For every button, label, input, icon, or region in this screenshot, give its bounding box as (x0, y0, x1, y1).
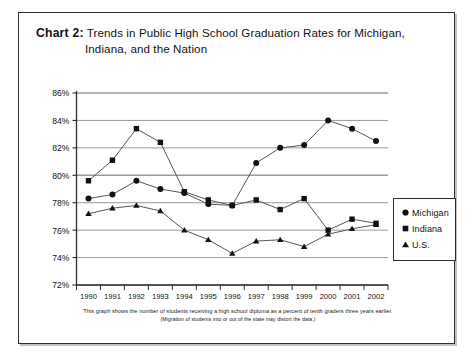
chart-card: Chart 2: Trends in Public High School Gr… (18, 12, 455, 344)
data-point-us-1998 (277, 237, 283, 242)
data-point-indiana-1993 (158, 140, 163, 145)
y-tick-label: 80% (52, 171, 70, 181)
data-point-us-1996 (229, 250, 235, 255)
square-marker-icon (399, 224, 412, 233)
circle-marker-icon (399, 208, 412, 217)
x-tick-label: 2000 (320, 292, 337, 301)
data-point-michigan-1999 (301, 142, 307, 148)
data-point-michigan-2001 (349, 126, 355, 132)
x-tick-label: 1993 (152, 292, 169, 301)
legend-item-michigan: Michigan (399, 205, 450, 220)
x-tick-label: 1992 (128, 292, 145, 301)
legend-label-us: U.S. (412, 240, 430, 250)
data-point-indiana-1999 (301, 196, 306, 201)
legend-item-indiana: Indiana (399, 221, 450, 236)
x-tick-labels-group: 1990199119921993199419951996199719981999… (80, 292, 384, 301)
y-tick-label: 84% (52, 116, 70, 126)
y-tick-labels-group: 72%74%76%78%80%82%84%86% (52, 88, 70, 290)
x-tick-label: 1996 (224, 292, 241, 301)
x-tick-label: 1994 (176, 292, 193, 301)
data-point-indiana-1994 (182, 189, 187, 194)
data-point-indiana-1995 (206, 197, 211, 202)
x-tick-label: 2002 (368, 292, 385, 301)
data-point-michigan-1997 (253, 160, 259, 166)
data-point-michigan-1991 (109, 191, 115, 197)
x-tick-label: 1999 (296, 292, 313, 301)
legend-item-us: U.S. (399, 237, 450, 252)
series-line-us (88, 205, 376, 253)
line-chart-svg: 72%74%76%78%80%82%84%86% 199019911992199… (19, 13, 456, 345)
x-tick-label: 1991 (104, 292, 121, 301)
x-tick-label: 1998 (272, 292, 289, 301)
y-tick-label: 76% (52, 226, 70, 236)
data-point-indiana-1990 (86, 178, 91, 183)
series-lines-group (88, 120, 376, 253)
y-tick-label: 82% (52, 143, 70, 153)
x-tick-label: 1990 (80, 292, 97, 301)
y-tick-label: 78% (52, 198, 70, 208)
legend-label-michigan: Michigan (412, 208, 449, 218)
footnote-line-2: (Migration of students into or out of th… (53, 315, 423, 323)
x-tick-label: 1997 (248, 292, 265, 301)
series-line-michigan (88, 120, 376, 205)
y-tick-label: 72% (52, 280, 70, 290)
data-point-michigan-1998 (277, 145, 283, 151)
legend: Michigan Indiana U.S. (393, 198, 456, 261)
x-tick-label: 2001 (344, 292, 361, 301)
data-point-michigan-1993 (157, 186, 163, 192)
data-point-michigan-1992 (133, 178, 139, 184)
footnote-line-1: This graph shows the number of students … (53, 307, 423, 315)
y-tick-label: 74% (52, 253, 70, 263)
data-point-indiana-1997 (254, 197, 259, 202)
data-point-michigan-1990 (85, 196, 91, 202)
data-point-indiana-1991 (110, 158, 115, 163)
plot-area: 72%74%76%78%80%82%84%86% 199019911992199… (19, 13, 456, 345)
gridlines-group (77, 93, 389, 285)
footnote: This graph shows the number of students … (53, 307, 423, 323)
data-point-indiana-2001 (349, 216, 354, 221)
data-point-indiana-1996 (230, 203, 235, 208)
y-tick-label: 86% (52, 88, 70, 98)
data-point-indiana-1998 (277, 207, 282, 212)
triangle-marker-icon (399, 240, 412, 249)
x-tick-label: 1995 (200, 292, 217, 301)
series-line-indiana (88, 129, 376, 230)
legend-label-indiana: Indiana (412, 224, 442, 234)
data-point-indiana-1992 (134, 126, 139, 131)
data-point-michigan-2000 (325, 117, 331, 123)
data-point-michigan-2002 (373, 138, 379, 144)
